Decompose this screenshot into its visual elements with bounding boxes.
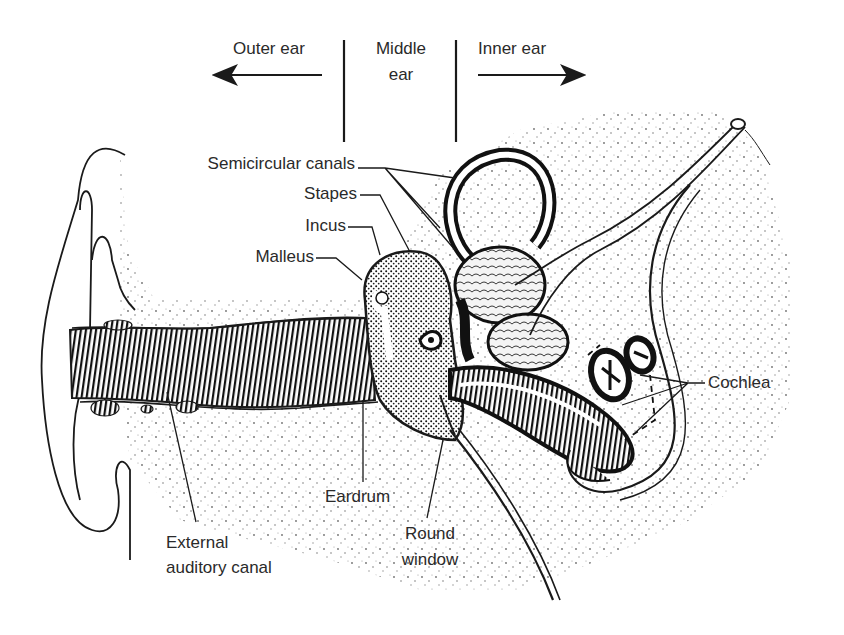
- label-stapes: Stapes: [270, 183, 357, 205]
- label-outer-ear: Outer ear: [233, 38, 305, 60]
- label-round-window-line2: window: [390, 549, 470, 571]
- label-cochlea: Cochlea: [708, 372, 770, 394]
- label-malleus: Malleus: [220, 246, 314, 268]
- leader-stapes: [360, 195, 410, 252]
- label-external-canal-line1: External: [166, 532, 228, 554]
- external-auditory-canal-drawing: [70, 317, 378, 416]
- label-middle-ear-line1: Middle: [358, 38, 444, 60]
- label-incus: Incus: [270, 215, 346, 237]
- label-round-window-line1: Round: [390, 523, 470, 545]
- label-eardrum: Eardrum: [325, 486, 390, 508]
- label-semicircular-canals: Semicircular canals: [160, 153, 355, 175]
- label-external-canal-line2: auditory canal: [166, 557, 272, 579]
- label-inner-ear: Inner ear: [478, 38, 546, 60]
- leader-malleus: [316, 258, 362, 280]
- label-middle-ear-line2: ear: [358, 64, 444, 86]
- leader-incus: [348, 227, 380, 255]
